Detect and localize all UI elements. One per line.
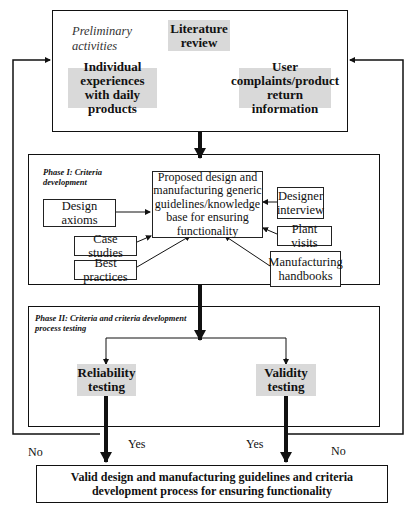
case-studies-node: Case studies bbox=[74, 236, 137, 256]
no-left-label: No bbox=[28, 445, 43, 460]
final-outcome-box: Valid design and manufacturing guideline… bbox=[36, 465, 388, 503]
manufacturing-handbooks-node: Manufacturing handbooks bbox=[270, 251, 341, 287]
preliminary-label: Preliminary activities bbox=[72, 24, 132, 54]
user-complaints-node: User complaints/product return informati… bbox=[239, 68, 331, 108]
proposed-guidelines-node: Proposed design and manufacturing generi… bbox=[152, 171, 263, 238]
plant-visits-node: Plant visits bbox=[277, 226, 332, 246]
phase1-label: Phase I: Criteria development bbox=[43, 167, 102, 187]
designer-interview-node: Designer interview bbox=[277, 187, 324, 219]
validity-testing-node: Validity testing bbox=[256, 364, 316, 396]
no-right-label: No bbox=[331, 444, 346, 459]
individual-experiences-node: Individual experiences with daily produc… bbox=[68, 68, 157, 108]
yes-right-label: Yes bbox=[246, 437, 263, 452]
preliminary-activities-box: Preliminary activities Literature review… bbox=[52, 10, 348, 132]
phase2-label: Phase II: Criteria and criteria developm… bbox=[35, 313, 186, 333]
yes-left-label: Yes bbox=[128, 437, 145, 452]
design-axioms-node: Design axioms bbox=[43, 199, 116, 227]
literature-review-node: Literature review bbox=[168, 20, 230, 51]
reliability-testing-node: Reliability testing bbox=[77, 364, 136, 396]
best-practices-node: Best practices bbox=[74, 260, 137, 280]
